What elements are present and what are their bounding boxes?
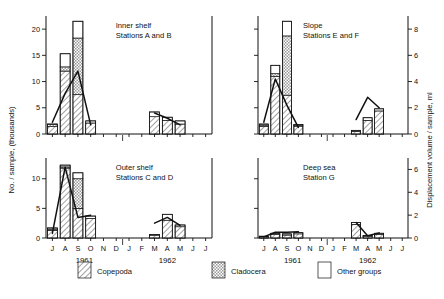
y2-tick-label: 6	[414, 51, 418, 60]
legend-label: Other groups	[337, 267, 382, 276]
month-label: J	[331, 244, 335, 253]
bar-segment-copepoda	[150, 117, 160, 134]
year-label: 1962	[159, 256, 176, 265]
month-label: M	[177, 244, 183, 253]
y2-tick-label: 2	[414, 211, 418, 220]
x-axis-labels-panel-outer-shelf: JASONDJFMAMJJ19611962	[51, 244, 208, 265]
month-label: D	[114, 244, 119, 253]
year-label: 1962	[359, 256, 376, 265]
legend-swatch-other	[318, 262, 331, 278]
y-tick-label: 10	[32, 77, 40, 86]
bar-segment-other	[271, 65, 280, 73]
panel-deep-sea: 0246Deep seaStation G	[254, 158, 418, 245]
bar-segment-other	[363, 118, 372, 121]
month-label: J	[400, 244, 404, 253]
month-label: J	[51, 244, 55, 253]
panel-title-line1: Outer shelf	[116, 163, 154, 172]
bar-segment-copepoda	[271, 234, 280, 238]
bar-segment-copepoda	[352, 131, 361, 134]
y2-tick-label: 8	[414, 25, 418, 34]
bar-segment-copepoda	[259, 127, 268, 134]
year-label: 1961	[284, 256, 301, 265]
bar-segment-other	[60, 54, 70, 67]
panel-outer-shelf: 0510Outer shelfStations C and D	[32, 158, 212, 245]
panel-title-line2: Stations C and D	[116, 173, 174, 182]
bar-segment-cladocera	[60, 67, 70, 71]
y2-tick-label: 6	[414, 165, 418, 174]
legend: CopepodaCladoceraOther groups	[78, 262, 382, 278]
panel-inner-shelf: 05101520Inner shelfStations A and B	[32, 16, 212, 141]
y2-tick-label: 4	[414, 188, 418, 197]
legend-swatch-cladocera	[212, 262, 225, 278]
month-label: J	[389, 244, 393, 253]
bar-segment-copepoda	[175, 227, 185, 238]
plot-layer: 05101520Inner shelfStations A and B02468…	[7, 16, 434, 278]
month-label: J	[127, 244, 131, 253]
month-label: J	[204, 244, 208, 253]
bar-segment-copepoda	[86, 218, 96, 238]
y-tick-label: 15	[32, 51, 40, 60]
legend-swatch-copepoda	[78, 262, 91, 278]
month-label: D	[319, 244, 324, 253]
y-tick-label: 5	[36, 103, 40, 112]
month-label: J	[262, 244, 266, 253]
bar-segment-copepoda	[150, 236, 160, 238]
figure-root: 05101520Inner shelfStations A and B02468…	[0, 0, 444, 299]
month-label: A	[273, 244, 278, 253]
month-label: A	[63, 244, 68, 253]
bar-segment-cladocera	[271, 74, 280, 77]
bar-segment-other	[73, 21, 83, 38]
left-axis-title: No. / sample, (thousands)	[7, 106, 16, 193]
month-label: J	[191, 244, 195, 253]
month-label: M	[151, 244, 157, 253]
month-label: M	[353, 244, 359, 253]
volume-line-1961	[264, 79, 299, 128]
legend-label: Copepoda	[97, 267, 133, 276]
y-tick-label: 10	[32, 174, 40, 183]
y2-tick-label: 4	[414, 77, 418, 86]
bar-segment-copepoda	[375, 234, 384, 238]
month-label: N	[307, 244, 312, 253]
bar-segment-copepoda	[73, 95, 83, 134]
panel-slope: 02468SlopeStations E and F	[254, 16, 418, 141]
month-label: O	[296, 244, 302, 253]
bar-segment-other	[73, 173, 83, 179]
bar-segment-copepoda	[73, 208, 83, 238]
month-label: F	[342, 244, 347, 253]
y-tick-label: 0	[36, 130, 40, 139]
month-label: O	[88, 244, 94, 253]
x-axis-labels-panel-deep-sea: JASONDJFMAMJJ19611962	[262, 244, 404, 265]
bar-segment-copepoda	[294, 234, 303, 238]
month-label: A	[365, 244, 370, 253]
panel-title-line1: Slope	[303, 21, 322, 30]
volume-line-1961	[52, 71, 90, 125]
bar-segment-copepoda	[47, 127, 57, 134]
bar-segment-copepoda	[162, 220, 172, 238]
y2-tick-label: 0	[414, 234, 418, 243]
month-label: S	[75, 244, 80, 253]
bar-segment-copepoda	[162, 120, 172, 134]
panel-title-line2: Station G	[303, 173, 335, 182]
y2-tick-label: 0	[414, 130, 418, 139]
volume-line-1961	[264, 232, 299, 237]
bar-segment-copepoda	[282, 235, 291, 238]
y-tick-label: 5	[36, 204, 40, 213]
month-label: M	[376, 244, 382, 253]
bar-segment-copepoda	[282, 95, 291, 134]
month-label: F	[140, 244, 145, 253]
bar-segment-copepoda	[363, 120, 372, 134]
panel-title-line1: Inner shelf	[116, 21, 152, 30]
panel-title-line2: Stations E and F	[303, 31, 360, 40]
month-label: A	[165, 244, 170, 253]
y2-tick-label: 2	[414, 103, 418, 112]
bar-segment-cladocera	[282, 36, 291, 95]
panel-title-line2: Stations A and B	[116, 31, 172, 40]
bar-segment-other	[282, 21, 291, 36]
right-axis-title: Displacement volume / sample, ml	[425, 92, 434, 208]
bar-segment-copepoda	[375, 111, 384, 134]
y-tick-label: 20	[32, 25, 40, 34]
chart-svg: 05101520Inner shelfStations A and B02468…	[0, 0, 444, 299]
y-tick-label: 0	[36, 234, 40, 243]
panel-title-line1: Deep sea	[303, 163, 336, 172]
month-label: S	[284, 244, 289, 253]
